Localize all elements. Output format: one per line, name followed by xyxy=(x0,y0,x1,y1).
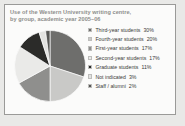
legend-item-label: Staff / alumni xyxy=(95,83,125,89)
legend-swatch-icon xyxy=(88,56,92,60)
legend-item-value: 2% xyxy=(129,83,137,89)
legend-item-label: First-year students xyxy=(95,45,138,51)
chart-title: Use of the Western University writing ce… xyxy=(10,9,170,24)
legend-item-label: Fourth-year students xyxy=(95,36,143,42)
legend-swatch-icon xyxy=(88,28,92,32)
plot-area: Third-year students30%Fourth-year studen… xyxy=(5,24,175,114)
chart-card: Use of the Western University writing ce… xyxy=(4,4,176,115)
legend-swatch-icon xyxy=(88,65,92,69)
legend-item: Second-year students17% xyxy=(88,53,174,62)
legend-item: Staff / alumni2% xyxy=(88,81,174,90)
pie-slices xyxy=(14,31,85,102)
chart-title-line-1: Use of the Western University writing ce… xyxy=(10,9,170,16)
legend-item-value: 3% xyxy=(129,74,137,80)
legend-item-label: Third-year students xyxy=(95,27,140,33)
legend-item-label: Graduate students xyxy=(95,64,138,70)
legend-item-label: Second-year students xyxy=(95,55,146,61)
legend-item-value: 11% xyxy=(141,64,151,70)
legend-item-value: 17% xyxy=(142,45,152,51)
legend-item: Fourth-year students20% xyxy=(88,34,174,43)
pie-chart-svg xyxy=(14,27,86,103)
legend-item-label: Not indicated xyxy=(95,74,126,80)
legend-item: First-year students17% xyxy=(88,44,174,53)
legend-swatch-icon xyxy=(88,46,92,50)
chart-legend: Third-year students30%Fourth-year studen… xyxy=(88,25,174,91)
page-root: Use of the Western University writing ce… xyxy=(0,0,185,126)
legend-swatch-icon xyxy=(88,84,92,88)
legend-item: Graduate students11% xyxy=(88,63,174,72)
legend-item-value: 17% xyxy=(149,55,159,61)
legend-item-value: 20% xyxy=(147,36,157,42)
pie-chart xyxy=(14,27,86,103)
legend-item: Not indicated3% xyxy=(88,72,174,81)
legend-swatch-icon xyxy=(88,37,92,41)
legend-item-value: 30% xyxy=(143,27,153,33)
chart-title-line-2: by group, academic year 2005–06 xyxy=(10,16,170,23)
legend-item: Third-year students30% xyxy=(88,25,174,34)
legend-swatch-icon xyxy=(88,74,92,78)
